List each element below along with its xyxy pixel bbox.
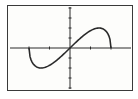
graph-plot <box>0 0 138 99</box>
